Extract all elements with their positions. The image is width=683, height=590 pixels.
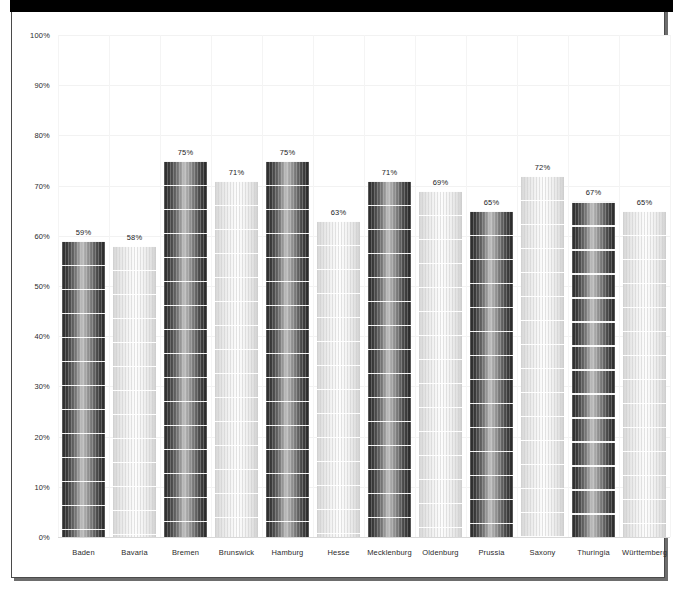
bar[interactable] xyxy=(572,201,615,537)
bar-group[interactable]: 58%Bavaria xyxy=(109,35,160,537)
bar-value-label: 72% xyxy=(517,163,568,172)
y-tick-label: 90% xyxy=(34,81,50,90)
bar-value-label: 58% xyxy=(109,233,160,242)
bar-group[interactable]: 71%Mecklenburg xyxy=(364,35,415,537)
x-tick-label: Mecklenburg xyxy=(367,548,412,557)
bar-value-label: 67% xyxy=(568,188,619,197)
bar-group[interactable]: 65%Württemberg xyxy=(619,35,670,537)
bar[interactable] xyxy=(113,246,156,537)
y-tick-label: 10% xyxy=(34,482,50,491)
bar[interactable] xyxy=(419,191,462,537)
x-tick-label: Saxony xyxy=(530,548,556,557)
x-tick-label: Hesse xyxy=(327,548,349,557)
bar[interactable] xyxy=(623,211,666,537)
x-tick-label: Oldenburg xyxy=(422,548,458,557)
plot-area: 0%10%20%30%40%50%60%70%80%90%100% 59%Bad… xyxy=(58,35,670,537)
y-tick-label: 70% xyxy=(34,181,50,190)
y-tick-label: 20% xyxy=(34,432,50,441)
bar[interactable] xyxy=(164,161,207,538)
bar-value-label: 59% xyxy=(58,228,109,237)
y-tick-label: 60% xyxy=(34,231,50,240)
x-tick-label: Thuringia xyxy=(577,548,610,557)
y-tick-label: 100% xyxy=(30,31,50,40)
bar-group[interactable]: 72%Saxony xyxy=(517,35,568,537)
bar-group[interactable]: 69%Oldenburg xyxy=(415,35,466,537)
bar-group[interactable]: 71%Brunswick xyxy=(211,35,262,537)
bar-value-label: 75% xyxy=(160,148,211,157)
bar-group[interactable]: 65%Prussia xyxy=(466,35,517,537)
x-tick-label: Prussia xyxy=(478,548,504,557)
y-tick-label: 0% xyxy=(39,533,50,542)
x-tick-label: Bavaria xyxy=(121,548,147,557)
bar-value-label: 65% xyxy=(466,198,517,207)
x-tick-label: Baden xyxy=(72,548,94,557)
y-tick-label: 40% xyxy=(34,332,50,341)
gridline-x-12 xyxy=(670,35,671,537)
bar-group[interactable]: 59%Baden xyxy=(58,35,109,537)
x-tick-label: Brunswick xyxy=(219,548,255,557)
x-tick-label: Württemberg xyxy=(622,548,667,557)
bar[interactable] xyxy=(470,211,513,537)
bar[interactable] xyxy=(62,241,105,537)
bar[interactable] xyxy=(317,221,360,537)
bar[interactable] xyxy=(215,181,258,537)
plot-wrapper: 0%10%20%30%40%50%60%70%80%90%100% 59%Bad… xyxy=(0,0,683,590)
gridline-y-0 xyxy=(58,537,670,538)
y-tick-label: 80% xyxy=(34,131,50,140)
chart-figure: 0%10%20%30%40%50%60%70%80%90%100% 59%Bad… xyxy=(0,0,683,590)
bar[interactable] xyxy=(521,176,564,537)
bar-value-label: 63% xyxy=(313,208,364,217)
x-tick-label: Bremen xyxy=(172,548,199,557)
bar-group[interactable]: 67%Thuringia xyxy=(568,35,619,537)
bar-value-label: 65% xyxy=(619,198,670,207)
y-tick-label: 50% xyxy=(34,282,50,291)
bar-group[interactable]: 75%Bremen xyxy=(160,35,211,537)
bar-value-label: 71% xyxy=(364,168,415,177)
bar-value-label: 69% xyxy=(415,178,466,187)
bar[interactable] xyxy=(368,181,411,537)
bar-value-label: 75% xyxy=(262,148,313,157)
bar-group[interactable]: 75%Hamburg xyxy=(262,35,313,537)
x-tick-label: Hamburg xyxy=(272,548,304,557)
bar[interactable] xyxy=(266,161,309,538)
y-tick-label: 30% xyxy=(34,382,50,391)
bar-value-label: 71% xyxy=(211,168,262,177)
bar-group[interactable]: 63%Hesse xyxy=(313,35,364,537)
